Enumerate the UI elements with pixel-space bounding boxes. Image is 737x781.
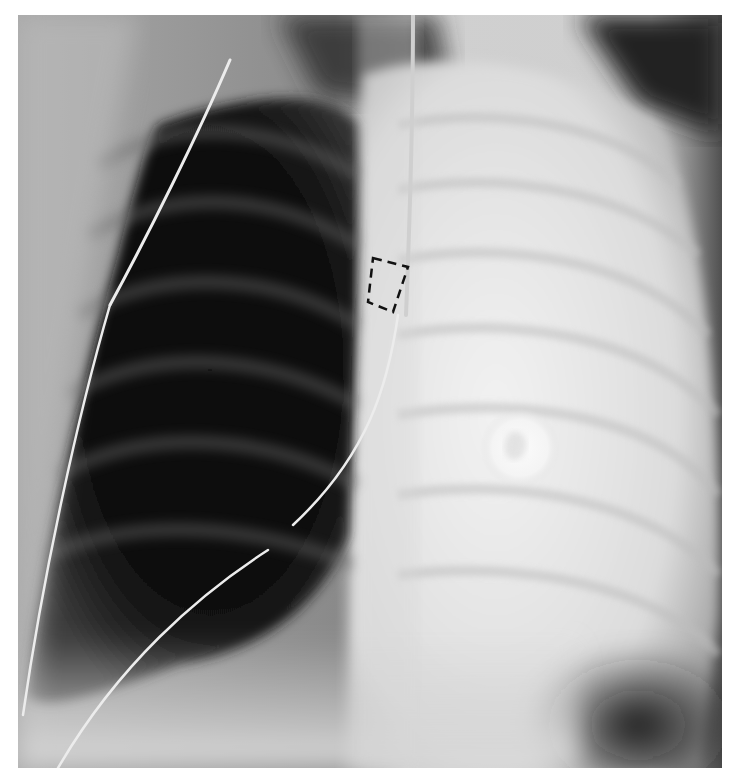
xray-image — [18, 15, 722, 768]
xray-drawing — [18, 15, 722, 768]
